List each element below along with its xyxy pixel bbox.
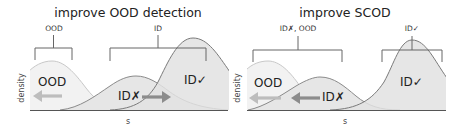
label-ood: OOD: [254, 76, 282, 90]
label-id-wrong: ID✗: [118, 89, 141, 103]
panel-title: improve SCOD: [299, 5, 390, 20]
panel-ood-detection: improve OOD detection OOD ID OOD ID✗: [17, 5, 230, 126]
bracket-idwrong-ood: [253, 36, 342, 62]
label-ood: OOD: [38, 75, 66, 89]
y-axis-label: density: [17, 73, 26, 103]
bracket-label-idwrong-ood: ID✗, OOD: [280, 24, 317, 33]
diagram-canvas: improve OOD detection OOD ID OOD ID✗: [0, 0, 461, 130]
panel-title: improve OOD detection: [54, 5, 201, 20]
bracket-label-id: ID: [154, 24, 162, 33]
x-axis-label: s: [126, 117, 130, 126]
bracket-ood: [35, 35, 72, 60]
label-id-correct: ID✓: [184, 73, 207, 87]
x-axis-label: s: [343, 117, 347, 126]
bracket-label-ood: OOD: [45, 24, 63, 33]
label-id-correct: ID✓: [400, 75, 423, 89]
y-axis-label: density: [233, 73, 242, 103]
panel-scod: improve SCOD ID✗, OOD ID✓ OOD ID✗ ID✓: [233, 5, 447, 126]
label-id-wrong: ID✗: [322, 90, 345, 104]
bracket-label-idcorrect: ID✓: [405, 24, 419, 33]
